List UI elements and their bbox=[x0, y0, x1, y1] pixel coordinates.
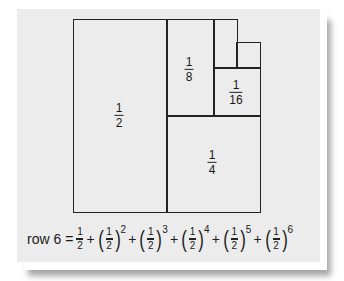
plus-sign: + bbox=[170, 231, 178, 247]
exponent: 4 bbox=[204, 224, 210, 235]
denominator: 2 bbox=[116, 118, 123, 129]
term-3: (12)3 bbox=[138, 227, 168, 251]
term-1: 1 2 bbox=[76, 227, 83, 250]
label-quarter: 1 4 bbox=[208, 150, 217, 176]
numerator: 1 bbox=[209, 150, 216, 161]
term-5: (12)5 bbox=[222, 227, 252, 251]
denominator: 2 bbox=[273, 241, 279, 251]
numerator: 1 bbox=[190, 227, 196, 237]
numerator: 1 bbox=[116, 103, 123, 114]
exponent: 5 bbox=[246, 224, 252, 235]
denominator: 2 bbox=[190, 241, 196, 251]
term-6: (12)6 bbox=[264, 227, 294, 251]
exponent: 2 bbox=[121, 224, 127, 235]
series-formula: row 6 = 1 2 + (12)2 + (12)3 + (12)4 + (1… bbox=[25, 224, 293, 254]
exponent: 6 bbox=[288, 224, 294, 235]
numerator: 1 bbox=[106, 227, 112, 237]
plus-sign: + bbox=[86, 231, 94, 247]
numerator: 1 bbox=[186, 57, 193, 68]
denominator: 4 bbox=[209, 165, 216, 176]
label-half: 1 2 bbox=[115, 103, 124, 129]
label-eighth: 1 8 bbox=[185, 57, 194, 83]
numerator: 1 bbox=[148, 227, 154, 237]
denominator: 2 bbox=[106, 241, 112, 251]
denominator: 2 bbox=[148, 241, 154, 251]
denominator: 8 bbox=[186, 72, 193, 83]
denominator: 16 bbox=[229, 95, 242, 106]
label-sixteenth: 1 16 bbox=[229, 80, 242, 106]
plus-sign: + bbox=[253, 231, 261, 247]
formula-lhs: row 6 bbox=[27, 231, 61, 247]
term-2: (12)2 bbox=[97, 227, 127, 251]
denominator: 2 bbox=[232, 241, 238, 251]
numerator: 1 bbox=[77, 227, 83, 237]
term-4: (12)4 bbox=[180, 227, 210, 251]
numerator: 1 bbox=[273, 227, 279, 237]
exponent: 3 bbox=[162, 224, 168, 235]
plus-sign: + bbox=[128, 231, 136, 247]
region-sixty-fourth bbox=[236, 42, 261, 69]
denominator: 2 bbox=[77, 241, 83, 251]
plus-sign: + bbox=[212, 231, 220, 247]
numerator: 1 bbox=[232, 227, 238, 237]
equals-sign: = bbox=[65, 231, 73, 247]
numerator: 1 bbox=[233, 80, 240, 91]
region-thirty-second bbox=[213, 19, 238, 69]
